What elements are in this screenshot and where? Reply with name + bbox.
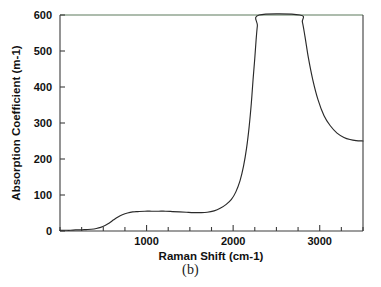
y-tick-label: 100 [34, 189, 52, 201]
y-tick-label: 600 [34, 9, 52, 21]
y-tick-label: 500 [34, 45, 52, 57]
data-series-group [60, 14, 363, 230]
y-tick-label: 200 [34, 153, 52, 165]
absorption-coefficient-chart: 0100200300400500600 100020003000 Raman S… [0, 0, 381, 287]
x-tick-label: 1000 [134, 235, 158, 247]
y-tick-label: 0 [46, 225, 52, 237]
y-tick-label: 300 [34, 117, 52, 129]
y-axis-ticks [60, 15, 65, 231]
x-tick-label: 2000 [221, 235, 245, 247]
x-tick-label: 3000 [307, 235, 331, 247]
y-axis-tick-labels: 0100200300400500600 [34, 9, 52, 237]
x-axis-title: Raman Shift (cm-1) [159, 250, 264, 262]
x-axis-tick-labels: 100020003000 [134, 235, 332, 247]
plot-frame [60, 15, 363, 231]
figure-caption: (b) [0, 262, 381, 278]
figure-panel: 0100200300400500600 100020003000 Raman S… [0, 0, 381, 287]
data-curve [60, 14, 363, 230]
y-tick-label: 400 [34, 81, 52, 93]
y-axis-title: Absorption Coefficient (m-1) [10, 45, 22, 200]
